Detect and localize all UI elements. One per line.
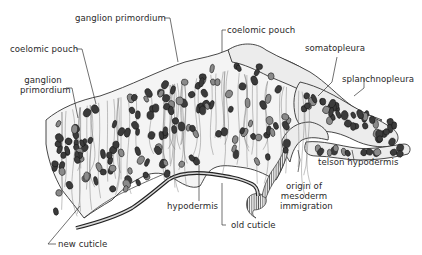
label-ganglion-primordium-top: ganglion primordium — [75, 13, 166, 23]
cell-nucleus — [256, 64, 263, 70]
cell-nucleus — [53, 207, 59, 215]
cell-nucleus — [377, 136, 383, 142]
leader-old-cuticle — [222, 183, 226, 225]
label-origin-line3: immigration — [280, 201, 328, 211]
label-somatopleura: somatopleura — [305, 43, 365, 53]
cell-nucleus — [135, 179, 141, 187]
leader-coelomic-pouch-top — [222, 30, 226, 52]
label-coelomic-pouch-top: coelomic pouch — [227, 25, 295, 35]
cell-nucleus — [100, 169, 106, 175]
old-cuticle-hatched-knot — [246, 194, 266, 219]
leader-origin-mesoderm — [298, 150, 300, 172]
cell-nucleus — [350, 122, 356, 130]
label-new-cuticle: new cuticle — [58, 239, 107, 249]
label-telson-hypodermis: telson hypodermis — [318, 157, 398, 167]
label-ganglion-primordium-left-line2: primordium — [20, 85, 66, 95]
label-origin-line1: origin of — [280, 181, 328, 191]
cell-nucleus — [107, 152, 113, 159]
cell-nucleus — [391, 122, 397, 130]
cell-nucleus — [327, 149, 332, 156]
cell-nucleus — [268, 73, 274, 80]
cell-nucleus — [176, 97, 184, 106]
cell-nucleus — [147, 111, 154, 119]
leader-ganglion-primordium-top — [164, 18, 178, 62]
label-splanchnopleura: splanchnopleura — [342, 74, 414, 84]
leader-coelomic-pouch-left — [76, 49, 96, 104]
cell-nucleus — [163, 127, 168, 136]
cell-nucleus — [215, 78, 221, 85]
cell-nucleus — [341, 111, 348, 121]
cell-nucleus — [135, 111, 140, 119]
cell-nucleus — [245, 98, 250, 108]
label-hypodermis: hypodermis — [167, 201, 218, 211]
cell-nucleus — [71, 125, 78, 134]
label-ganglion-primordium-left: ganglion primordium — [20, 75, 66, 95]
cell-nucleus — [84, 172, 90, 180]
label-origin-line2: mesoderm — [280, 191, 328, 201]
embryo-section-illustration — [0, 0, 422, 255]
label-old-cuticle: old cuticle — [231, 220, 276, 230]
cell-nucleus — [109, 165, 116, 172]
label-coelomic-pouch-left: coelomic pouch — [10, 44, 78, 54]
cell-nucleus — [333, 145, 339, 152]
label-ganglion-primordium-left-line1: ganglion — [20, 75, 66, 85]
cell-nucleus — [320, 98, 326, 105]
cell-nucleus — [283, 147, 289, 153]
cell-nucleus — [153, 104, 159, 112]
label-origin-of-mesoderm-immigration: origin of mesoderm immigration — [280, 181, 328, 211]
